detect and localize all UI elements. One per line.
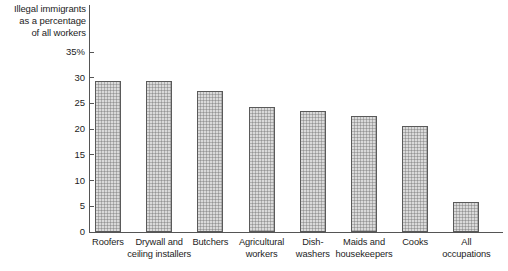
bar-chart: Illegal immigrants as a percentage of al…	[0, 0, 508, 271]
y-axis-tick-mark	[90, 206, 94, 207]
chart-title: Illegal immigrants as a percentage of al…	[2, 3, 86, 40]
bar	[402, 126, 428, 232]
y-axis-tick: 10	[40, 175, 95, 187]
y-axis-tick: 25	[40, 97, 95, 109]
y-axis-tick-label: 10	[43, 175, 85, 187]
y-axis-tick-label: 35%	[43, 46, 85, 58]
y-axis-tick-mark	[90, 232, 94, 233]
chart-title-line-1: Illegal immigrants	[2, 3, 86, 15]
bar	[249, 107, 275, 232]
y-axis-tick-label: 25	[43, 97, 85, 109]
category-label-line: occupations	[428, 249, 504, 261]
chart-title-line-2: as a percentage	[2, 15, 86, 27]
x-axis-line	[89, 232, 503, 233]
y-axis-tick-mark	[90, 52, 94, 53]
bar	[453, 202, 479, 232]
y-axis-tick-mark	[90, 77, 94, 78]
bar	[146, 81, 172, 232]
category-label-line: ceiling installers	[121, 249, 197, 261]
y-axis-tick-mark	[90, 129, 94, 130]
y-axis-tick: 5	[40, 200, 95, 212]
y-axis-tick-label: 30	[43, 72, 85, 84]
y-axis-tick-label: 20	[43, 123, 85, 135]
y-axis-tick: 30	[40, 72, 95, 84]
y-axis-tick-label: 15	[43, 149, 85, 161]
y-axis-line	[89, 5, 90, 233]
bar	[300, 111, 326, 232]
y-axis-tick: 35%	[40, 46, 95, 58]
y-axis-tick-mark	[90, 154, 94, 155]
bar	[351, 116, 377, 232]
y-axis-tick-mark	[90, 103, 94, 104]
y-axis-tick: 20	[40, 123, 95, 135]
x-axis-category-label: Alloccupations	[428, 237, 504, 260]
bar	[95, 81, 121, 232]
category-label-line: housekeepers	[326, 249, 402, 261]
y-axis-tick-label: 5	[43, 200, 85, 212]
y-axis-tick: 15	[40, 149, 95, 161]
chart-title-line-3: of all workers	[2, 27, 86, 39]
bar	[197, 91, 223, 232]
y-axis-tick-mark	[90, 180, 94, 181]
category-label-line: All	[428, 237, 504, 249]
